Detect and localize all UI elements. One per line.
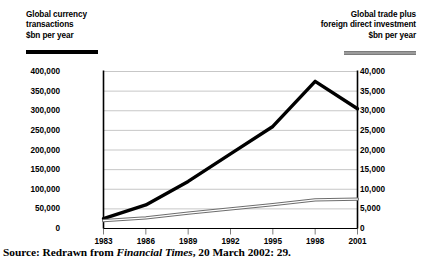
x-tick-label: 1992: [221, 237, 239, 246]
x-tick-label: 1995: [264, 237, 282, 246]
x-tick-label: 1986: [137, 237, 155, 246]
x-tick-label: 1983: [94, 237, 112, 246]
source-publication: Financial Times: [116, 246, 192, 258]
chart-figure: Global currency transactions $bn per yea…: [0, 0, 421, 265]
source-prefix: Source: Redrawn from: [3, 246, 116, 258]
x-tick-label: 2001: [348, 237, 366, 246]
x-tick-label: 1989: [179, 237, 197, 246]
x-axis-labels: 1983198619891992199519982001: [0, 0, 421, 265]
x-tick-label: 1998: [306, 237, 324, 246]
source-suffix: , 20 March 2002: 29.: [193, 246, 291, 258]
source-note: Source: Redrawn from Financial Times, 20…: [3, 246, 291, 258]
